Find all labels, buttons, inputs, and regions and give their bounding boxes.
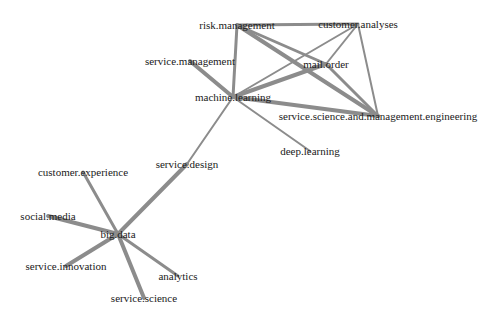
edge-machine-learning--service-design: [187, 97, 233, 164]
node-customer-experience: customer.experience: [38, 167, 128, 178]
node-deep-learning: deep.learning: [280, 146, 340, 157]
node-customer-analyses: customer.analyses: [318, 19, 398, 30]
node-service-science: service.science: [111, 293, 177, 304]
node-machine-learning: machine.learning: [195, 92, 271, 103]
node-social-media: social.media: [20, 211, 75, 222]
node-analytics: analytics: [158, 271, 197, 282]
node-mail-order: mail.order: [303, 59, 349, 70]
node-service-science-and-management-engineering: service.science.and.management.engineeri…: [279, 111, 478, 122]
network-graph: [0, 0, 500, 323]
node-service-management: service.management: [145, 56, 235, 67]
node-risk-management: risk.management: [199, 20, 274, 31]
node-service-innovation: service.innovation: [26, 261, 107, 272]
node-big-data: big.data: [100, 229, 135, 240]
edge-customer-analyses--service-science-and-management-engineering: [358, 24, 378, 116]
edge-service-design--big-data: [118, 164, 187, 234]
node-service-design: service.design: [156, 159, 219, 170]
